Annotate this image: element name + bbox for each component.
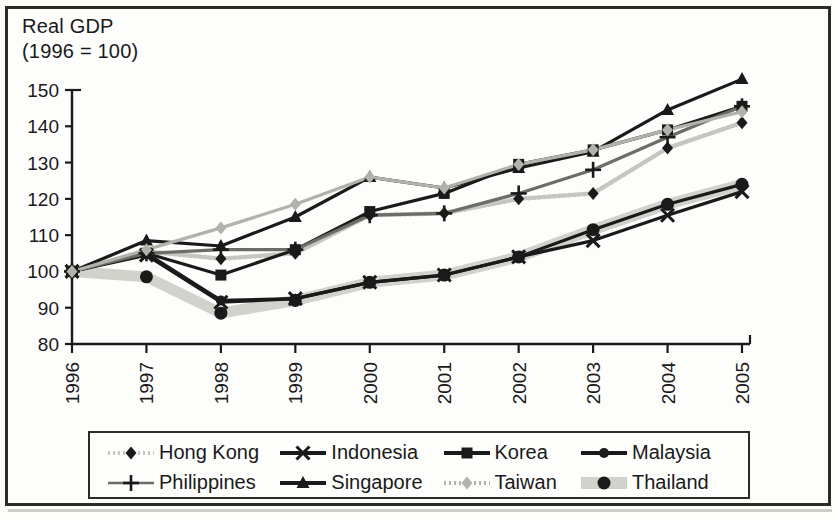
- x-axis-tick-label: 2002: [509, 362, 530, 404]
- y-axis-tick-label: 80: [38, 334, 59, 355]
- legend-item-hong-kong: Hong Kong: [96, 437, 276, 467]
- x-axis-tick-label: 2004: [658, 362, 679, 405]
- legend-swatch-malaysia: [577, 441, 631, 463]
- x-axis-tick-label: 1999: [285, 362, 306, 404]
- legend-item-thailand: Thailand: [577, 467, 742, 497]
- x-axis-tick-label: 1998: [211, 362, 232, 404]
- legend-label-indonesia: Indonesia: [330, 441, 418, 463]
- y-axis-tick-label: 110: [29, 225, 59, 246]
- legend-label-taiwan: Taiwan: [494, 471, 557, 493]
- legend-swatch-korea: [440, 441, 494, 463]
- legend-swatch-thailand: [577, 471, 631, 493]
- legend-item-malaysia: Malaysia: [577, 437, 742, 467]
- markers-thailand: [66, 178, 749, 320]
- x-axis-tick-label: 2005: [732, 362, 753, 404]
- chart-legend: Hong Kong Indonesia Korea Malaysia Phili…: [88, 431, 750, 499]
- x-axis-tick-label: 1996: [62, 362, 83, 404]
- legend-line-sample: [104, 441, 158, 465]
- legend-label-singapore: Singapore: [330, 471, 422, 493]
- series-philippines: [72, 106, 742, 271]
- y-axis-tick-label: 90: [38, 298, 59, 319]
- legend-swatch-singapore: [276, 471, 330, 493]
- x-axis-tick-label: 2000: [360, 362, 381, 404]
- legend-swatch-philippines: [104, 471, 158, 493]
- legend-swatch-indonesia: [276, 441, 330, 463]
- x-axis-tick-label: 2001: [434, 362, 455, 404]
- y-axis-tick-label: 150: [27, 80, 59, 101]
- y-axis-tick-label: 140: [27, 116, 59, 137]
- markers-singapore: [66, 72, 749, 276]
- legend-item-philippines: Philippines: [96, 467, 276, 497]
- x-axis-tick-label: 2003: [583, 362, 604, 404]
- legend-label-malaysia: Malaysia: [631, 441, 711, 463]
- legend-line-sample: [440, 441, 494, 465]
- y-axis-tick-label: 120: [27, 189, 59, 210]
- legend-swatch-hong-kong: [104, 441, 158, 463]
- series-hong-kong: [72, 123, 742, 272]
- legend-item-taiwan: Taiwan: [440, 467, 578, 497]
- chart-figure: Real GDP (1996 = 100) 809010011012013014…: [0, 0, 836, 519]
- x-axis-tick-label: 1997: [136, 362, 157, 404]
- legend-label-korea: Korea: [494, 441, 548, 463]
- y-axis-tick-label: 100: [27, 261, 59, 282]
- legend-line-sample: [577, 441, 631, 465]
- legend-swatch-taiwan: [440, 471, 494, 493]
- legend-row-1: Hong Kong Indonesia Korea Malaysia: [96, 437, 742, 467]
- series-taiwan: [72, 112, 742, 272]
- legend-label-philippines: Philippines: [158, 471, 256, 493]
- legend-row-2: Philippines Singapore Taiwan Thailand: [96, 467, 742, 497]
- legend-item-singapore: Singapore: [276, 467, 439, 497]
- legend-item-indonesia: Indonesia: [276, 437, 439, 467]
- legend-line-sample: [104, 471, 158, 495]
- y-axis-tick-label: 130: [27, 153, 59, 174]
- legend-line-sample: [577, 471, 631, 495]
- legend-line-sample: [276, 471, 330, 495]
- legend-label-hong-kong: Hong Kong: [158, 441, 259, 463]
- legend-item-korea: Korea: [440, 437, 578, 467]
- series-korea: [72, 106, 742, 275]
- legend-label-thailand: Thailand: [631, 471, 709, 493]
- legend-line-sample: [276, 441, 330, 465]
- legend-line-sample: [440, 471, 494, 495]
